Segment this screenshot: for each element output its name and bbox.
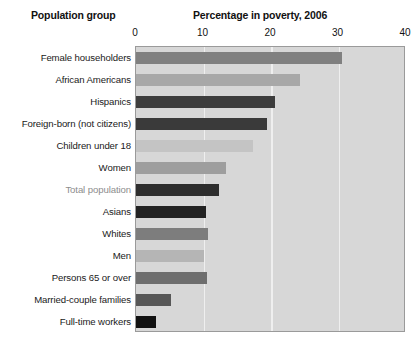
bar xyxy=(136,272,207,283)
category-label: Total population xyxy=(0,184,131,195)
x-tick-label: 30 xyxy=(332,27,343,38)
bar xyxy=(136,294,171,305)
category-label: Female householders xyxy=(0,52,131,63)
category-label: Married-couple families xyxy=(0,294,131,305)
category-label: Full-time workers xyxy=(0,316,131,327)
bar xyxy=(136,250,204,261)
category-axis-labels: Female householdersAfrican AmericansHisp… xyxy=(0,46,131,332)
category-label: Whites xyxy=(0,228,131,239)
bar xyxy=(136,228,208,239)
bar xyxy=(136,96,275,107)
plot-area xyxy=(135,46,405,332)
bar xyxy=(136,184,219,195)
bar-row xyxy=(136,184,404,195)
bar xyxy=(136,162,226,173)
x-axis-tick-labels: 010203040 xyxy=(0,27,415,42)
x-tick-label: 40 xyxy=(399,27,410,38)
bar xyxy=(136,140,253,151)
category-label: Children under 18 xyxy=(0,140,131,151)
category-label: African Americans xyxy=(0,74,131,85)
category-label: Women xyxy=(0,162,131,173)
bar xyxy=(136,206,206,217)
x-tick-label: 0 xyxy=(132,27,138,38)
bar xyxy=(136,118,267,129)
category-label: Hispanics xyxy=(0,96,131,107)
x-tick-label: 10 xyxy=(197,27,208,38)
population-group-heading: Population group xyxy=(31,9,116,21)
bar-row xyxy=(136,74,404,85)
bar-row xyxy=(136,272,404,283)
chart-title: Percentage in poverty, 2006 xyxy=(193,9,327,21)
bar xyxy=(136,52,342,63)
category-label: Foreign-born (not citizens) xyxy=(0,118,131,129)
category-label: Men xyxy=(0,250,131,261)
bar-row xyxy=(136,316,404,327)
bar-row xyxy=(136,96,404,107)
bars-container xyxy=(136,47,404,331)
bar-row xyxy=(136,118,404,129)
bar-row xyxy=(136,228,404,239)
x-tick-label: 20 xyxy=(264,27,275,38)
bar-row xyxy=(136,206,404,217)
bar xyxy=(136,74,300,85)
bar xyxy=(136,316,156,327)
category-label: Persons 65 or over xyxy=(0,272,131,283)
bar-row xyxy=(136,140,404,151)
poverty-bar-chart: Population group Percentage in poverty, … xyxy=(0,0,415,347)
bar-row xyxy=(136,162,404,173)
bar-row xyxy=(136,52,404,63)
bar-row xyxy=(136,250,404,261)
category-label: Asians xyxy=(0,206,131,217)
bar-row xyxy=(136,294,404,305)
